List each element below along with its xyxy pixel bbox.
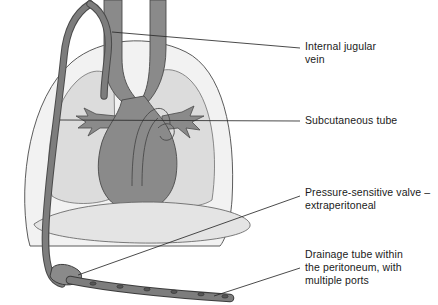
drainage-port <box>90 282 96 285</box>
leader-line-drainage <box>214 268 300 296</box>
drainage-port <box>117 285 123 288</box>
label-drainage-tube: Drainage tube within the peritoneum, wit… <box>305 248 435 287</box>
label-internal-jugular-vein: Internal jugular vein <box>305 40 433 66</box>
drainage-port <box>198 293 204 296</box>
label-subcutaneous-tube: Subcutaneous tube <box>305 114 433 127</box>
drainage-port <box>171 290 177 293</box>
drainage-port <box>222 295 228 298</box>
drainage-port <box>144 288 150 291</box>
label-pressure-sensitive-valve: Pressure-sensitive valve – extraperitone… <box>305 186 435 212</box>
